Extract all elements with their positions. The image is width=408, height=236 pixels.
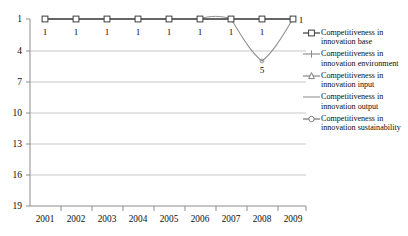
legend-label: Competitiveness in innovation sustainabi… xyxy=(321,114,408,133)
data-label-dip: 5 xyxy=(260,65,265,75)
x-axis xyxy=(30,206,306,211)
legend-item-innovation-input[interactable]: Competitiveness in innovation input xyxy=(303,71,408,90)
y-tick-label: 4 xyxy=(17,46,22,56)
legend-label: Competitiveness in innovation output xyxy=(321,92,408,111)
data-point-labels: 1 1 1 1 1 1 1 1 1 5 xyxy=(43,15,304,75)
legend-label: Competitiveness in innovation environmen… xyxy=(321,49,408,68)
legend-label: Competitiveness in innovation base xyxy=(321,28,408,47)
x-tick-label: 2007 xyxy=(222,214,241,224)
y-tick-label: 13 xyxy=(13,139,23,149)
data-label: 1 xyxy=(136,27,141,37)
line-marker-icon xyxy=(303,92,320,101)
x-tick-label: 2002 xyxy=(67,214,86,224)
y-tick-labels: 1 4 7 10 13 16 19 xyxy=(13,14,23,211)
x-tick-label: 2008 xyxy=(253,214,272,224)
open-circle-marker-icon xyxy=(303,114,320,123)
data-label: 1 xyxy=(74,27,79,37)
plus-marker-icon xyxy=(303,49,320,58)
legend-item-innovation-base[interactable]: Competitiveness in innovation base xyxy=(303,28,408,47)
legend-item-innovation-output[interactable]: Competitiveness in innovation output xyxy=(303,92,408,111)
y-axis xyxy=(26,19,30,206)
x-tick-label: 2004 xyxy=(129,214,148,224)
y-tick-label: 1 xyxy=(17,14,22,24)
gridlines xyxy=(30,51,306,175)
y-tick-label: 19 xyxy=(13,201,23,211)
data-label-last: 1 xyxy=(299,15,304,25)
x-tick-label: 2005 xyxy=(160,214,179,224)
data-label: 1 xyxy=(229,27,234,37)
legend-label: Competitiveness in innovation input xyxy=(321,71,408,90)
chart-container: 1 4 7 10 13 16 19 2001 2002 2003 2004 20… xyxy=(0,0,408,236)
y-tick-label: 7 xyxy=(17,77,22,87)
x-tick-label: 2006 xyxy=(191,214,210,224)
series-innovation-input xyxy=(231,19,293,63)
legend-item-innovation-environment[interactable]: Competitiveness in innovation environmen… xyxy=(303,49,408,68)
y-tick-label: 16 xyxy=(13,170,23,180)
legend-item-innovation-sustainability[interactable]: Competitiveness in innovation sustainabi… xyxy=(303,114,408,133)
triangle-marker-icon xyxy=(303,71,320,80)
data-label: 1 xyxy=(198,27,203,37)
x-tick-labels: 2001 2002 2003 2004 2005 2006 2007 2008 … xyxy=(36,214,303,224)
data-label: 1 xyxy=(105,27,110,37)
data-label: 1 xyxy=(167,27,172,37)
y-tick-label: 10 xyxy=(13,108,23,118)
x-tick-label: 2003 xyxy=(98,214,117,224)
data-label: 1 xyxy=(260,27,265,37)
x-tick-label: 2001 xyxy=(36,214,55,224)
open-square-marker-icon xyxy=(303,28,320,37)
x-tick-label: 2009 xyxy=(284,214,303,224)
chart-legend: Competitiveness in innovation base Compe… xyxy=(303,28,408,135)
data-label: 1 xyxy=(43,27,48,37)
